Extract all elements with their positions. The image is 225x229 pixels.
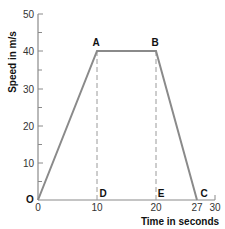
point-label-a: A [92, 37, 99, 48]
x-tick-label-0: 0 [35, 202, 41, 213]
speed-time-chart: 50 40 30 20 10 0 10 20 27 30 O A B C D E… [0, 0, 225, 229]
point-label-c: C [200, 188, 207, 199]
speed-line [38, 51, 197, 200]
y-axis-ticks [38, 14, 43, 182]
y-axis-title: Speed in m/s [7, 31, 18, 93]
y-tick-label-20: 20 [23, 121, 35, 132]
y-tick-label-10: 10 [23, 158, 35, 169]
y-tick-label-50: 50 [23, 9, 35, 20]
point-label-o: O [26, 194, 34, 205]
point-label-b: B [151, 37, 158, 48]
x-tick-label-27: 27 [191, 202, 203, 213]
y-tick-label-30: 30 [23, 84, 35, 95]
y-tick-label-40: 40 [23, 46, 35, 57]
x-tick-label-10: 10 [91, 202, 103, 213]
x-tick-label-20: 20 [150, 202, 162, 213]
x-axis-title: Time in seconds [141, 216, 220, 227]
point-label-e: E [158, 188, 165, 199]
x-tick-label-30: 30 [209, 202, 221, 213]
point-label-d: D [99, 188, 106, 199]
